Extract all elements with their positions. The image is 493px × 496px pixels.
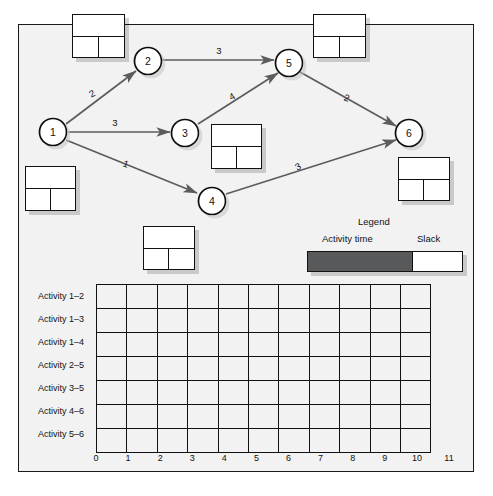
gantt-grid-cell[interactable] xyxy=(248,357,278,381)
gantt-grid-cell[interactable] xyxy=(157,333,187,357)
gantt-grid-cell[interactable] xyxy=(188,429,218,453)
gantt-grid-cell[interactable] xyxy=(279,429,309,453)
gantt-grid-cell[interactable] xyxy=(157,381,187,405)
activity-box-bottom-left-cell xyxy=(314,37,340,57)
gantt-grid-cell[interactable] xyxy=(188,405,218,429)
gantt-grid-cell[interactable] xyxy=(157,405,187,429)
gantt-x-tick: 2 xyxy=(152,453,168,463)
gantt-grid-cell[interactable] xyxy=(218,309,248,333)
gantt-grid-cell[interactable] xyxy=(97,285,127,309)
gantt-grid-cell[interactable] xyxy=(248,285,278,309)
gantt-grid-cell[interactable] xyxy=(127,309,157,333)
gantt-grid-cell[interactable] xyxy=(309,381,339,405)
activity-box-bottom-right-cell xyxy=(424,180,449,200)
gantt-grid-cell[interactable] xyxy=(97,381,127,405)
gantt-grid-cell[interactable] xyxy=(97,357,127,381)
gantt-grid-cell[interactable] xyxy=(309,429,339,453)
gantt-grid-cell[interactable] xyxy=(340,333,370,357)
activity-box-top-cell xyxy=(314,15,365,37)
gantt-grid-cell[interactable] xyxy=(127,429,157,453)
legend-activity-time-swatch xyxy=(308,252,413,271)
gantt-grid-cell[interactable] xyxy=(127,285,157,309)
gantt-row-label: Activity 1–2 xyxy=(18,291,90,301)
gantt-grid-cell[interactable] xyxy=(218,405,248,429)
gantt-grid-cell[interactable] xyxy=(370,309,400,333)
gantt-grid-cell[interactable] xyxy=(400,357,430,381)
gantt-grid-cell[interactable] xyxy=(340,405,370,429)
gantt-grid-cell[interactable] xyxy=(340,429,370,453)
gantt-grid-cell[interactable] xyxy=(218,357,248,381)
gantt-grid-row xyxy=(97,405,431,429)
gantt-grid-cell[interactable] xyxy=(188,285,218,309)
gantt-grid-cell[interactable] xyxy=(340,285,370,309)
gantt-grid-cell[interactable] xyxy=(279,285,309,309)
gantt-grid-cell[interactable] xyxy=(400,285,430,309)
activity-box-near-node-6 xyxy=(398,157,450,201)
gantt-grid-cell[interactable] xyxy=(157,429,187,453)
gantt-x-tick: 6 xyxy=(281,453,297,463)
gantt-grid-cell[interactable] xyxy=(309,285,339,309)
gantt-grid-cell[interactable] xyxy=(127,405,157,429)
gantt-grid-cell[interactable] xyxy=(157,285,187,309)
gantt-grid-cell[interactable] xyxy=(400,309,430,333)
gantt-grid-cell[interactable] xyxy=(400,429,430,453)
gantt-grid-cell[interactable] xyxy=(97,309,127,333)
gantt-grid-cell[interactable] xyxy=(309,333,339,357)
gantt-grid-cell[interactable] xyxy=(370,429,400,453)
gantt-grid-cell[interactable] xyxy=(248,381,278,405)
gantt-grid-cell[interactable] xyxy=(97,333,127,357)
gantt-row-label: Activity 3–5 xyxy=(18,383,90,393)
gantt-row: Activity 1–3 xyxy=(18,307,90,330)
gantt-grid-cell[interactable] xyxy=(248,333,278,357)
gantt-grid-cell[interactable] xyxy=(157,309,187,333)
gantt-grid-row xyxy=(97,357,431,381)
gantt-grid-cell[interactable] xyxy=(400,333,430,357)
gantt-grid-cell[interactable] xyxy=(279,309,309,333)
gantt-grid-cell[interactable] xyxy=(248,429,278,453)
gantt-grid-cell[interactable] xyxy=(157,357,187,381)
gantt-grid-cell[interactable] xyxy=(188,381,218,405)
gantt-chart: Activity 1–2Activity 1–3Activity 1–4Acti… xyxy=(18,284,474,472)
gantt-row-label: Activity 1–3 xyxy=(18,314,90,324)
gantt-grid-cell[interactable] xyxy=(218,285,248,309)
gantt-grid-cell[interactable] xyxy=(400,405,430,429)
gantt-grid-cell[interactable] xyxy=(309,405,339,429)
gantt-grid-body xyxy=(97,285,431,453)
gantt-grid-cell[interactable] xyxy=(127,333,157,357)
gantt-x-tick: 7 xyxy=(313,453,329,463)
gantt-grid-cell[interactable] xyxy=(370,357,400,381)
gantt-grid-cell[interactable] xyxy=(279,405,309,429)
gantt-grid-cell[interactable] xyxy=(188,309,218,333)
gantt-grid-cell[interactable] xyxy=(188,333,218,357)
activity-box-bottom-row xyxy=(212,147,261,168)
gantt-grid-cell[interactable] xyxy=(248,405,278,429)
gantt-grid-cell[interactable] xyxy=(218,429,248,453)
activity-box-bottom-right-cell xyxy=(99,37,125,57)
gantt-grid-cell[interactable] xyxy=(97,405,127,429)
gantt-grid-cell[interactable] xyxy=(340,309,370,333)
gantt-grid-cell[interactable] xyxy=(400,381,430,405)
gantt-grid-cell[interactable] xyxy=(127,357,157,381)
gantt-grid-cell[interactable] xyxy=(188,357,218,381)
gantt-grid-cell[interactable] xyxy=(309,357,339,381)
activity-box-bottom-row xyxy=(26,189,75,210)
gantt-grid-cell[interactable] xyxy=(218,381,248,405)
gantt-grid-cell[interactable] xyxy=(279,333,309,357)
gantt-grid-cell[interactable] xyxy=(97,429,127,453)
gantt-grid-cell[interactable] xyxy=(279,357,309,381)
gantt-grid-cell[interactable] xyxy=(309,309,339,333)
gantt-grid-cell[interactable] xyxy=(218,333,248,357)
gantt-grid-cell[interactable] xyxy=(127,381,157,405)
gantt-x-axis: 01234567891011 xyxy=(96,450,449,468)
gantt-grid-cell[interactable] xyxy=(340,381,370,405)
gantt-row: Activity 2–5 xyxy=(18,353,90,376)
gantt-grid-cell[interactable] xyxy=(370,333,400,357)
gantt-grid-cell[interactable] xyxy=(279,381,309,405)
gantt-grid-cell[interactable] xyxy=(370,381,400,405)
figure-canvas: 1 2 3 4 5 6 2 3 1 3 4 3 2 xyxy=(0,0,493,496)
gantt-grid-cell[interactable] xyxy=(340,357,370,381)
gantt-grid-cell[interactable] xyxy=(370,405,400,429)
gantt-grid-row xyxy=(97,429,431,453)
gantt-grid-cell[interactable] xyxy=(248,309,278,333)
gantt-grid-cell[interactable] xyxy=(370,285,400,309)
